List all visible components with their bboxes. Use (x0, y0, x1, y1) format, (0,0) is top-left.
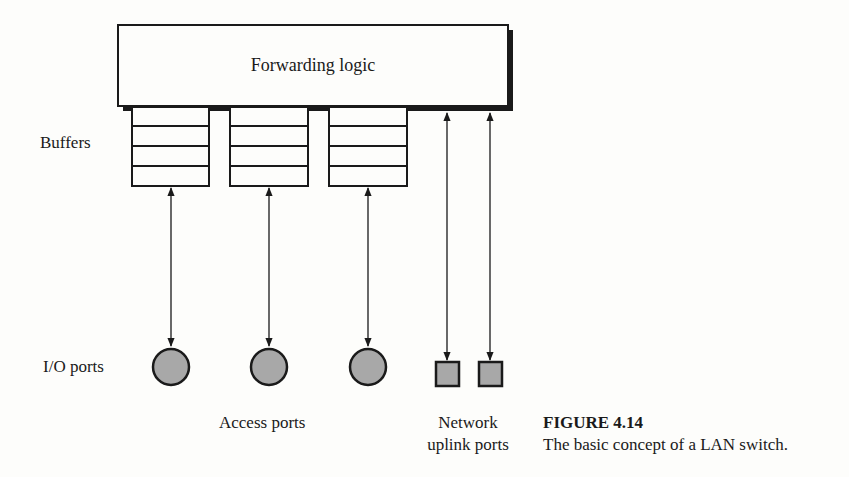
uplink-port-square-icon (479, 362, 502, 386)
access-port-circle-icon (350, 349, 386, 385)
buffer-stack-1 (132, 107, 209, 186)
figure-caption: FIGURE 4.14 The basic concept of a LAN s… (543, 413, 788, 455)
caption-title: FIGURE 4.14 (543, 413, 788, 433)
uplink-port-square-icon (436, 362, 459, 386)
buffers-label: Buffers (40, 133, 91, 153)
uplink-label-line-2: uplink ports (413, 435, 523, 455)
lan-switch-figure: Forwarding logic Buffers I/O ports Acces… (0, 0, 849, 477)
access-port-circle-icon (153, 349, 189, 385)
forwarding-logic-text: Forwarding logic (251, 55, 375, 76)
forwarding-logic-label: Forwarding logic (118, 25, 508, 106)
uplink-label-line-1: Network (413, 413, 523, 433)
buffer-stack-3 (329, 107, 407, 186)
caption-text: The basic concept of a LAN switch. (543, 435, 788, 455)
buffer-stack-2 (230, 107, 308, 186)
access-ports-label: Access ports (219, 413, 305, 433)
uplink-ports-label: Network uplink ports (413, 413, 523, 455)
access-port-circle-icon (251, 349, 287, 385)
io-ports-label: I/O ports (43, 357, 104, 377)
